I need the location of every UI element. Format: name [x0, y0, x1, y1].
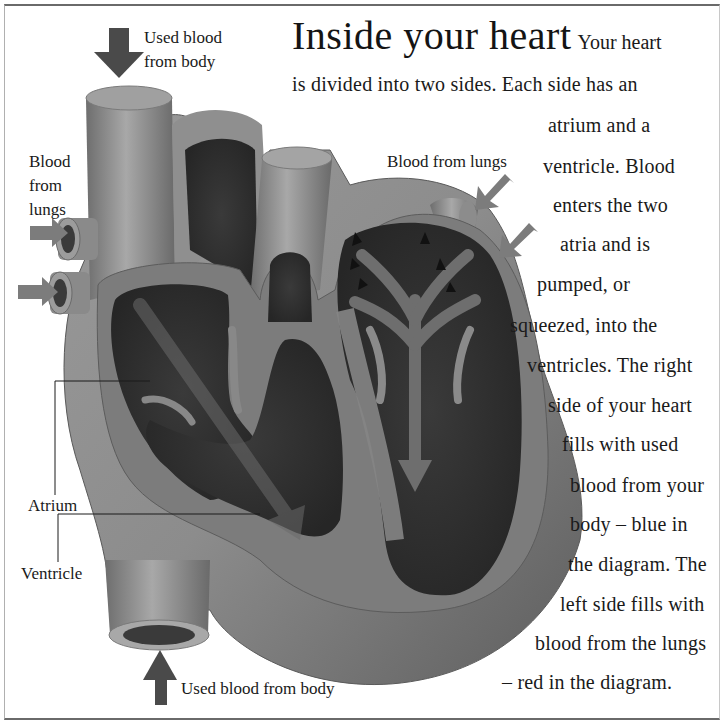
- body-line-2: atrium and a: [548, 114, 650, 137]
- body-line-6: pumped, or: [537, 273, 630, 296]
- label-used-blood-top-1: Used blood: [144, 26, 222, 49]
- body-line-12: body – blue in: [570, 513, 688, 536]
- body-line-16: – red in the diagram.: [502, 671, 672, 694]
- body-line-13: the diagram. The: [568, 553, 707, 576]
- body-line-7: squeezed, into the: [510, 314, 657, 337]
- body-line-3: ventricle. Blood: [543, 155, 675, 178]
- body-line-15: blood from the lungs: [535, 632, 706, 655]
- page-title: Inside your heart: [292, 13, 572, 58]
- arrow-lungs-right-1: [475, 174, 514, 210]
- body-line-11: blood from your: [570, 474, 704, 497]
- body-line-14: left side fills with: [560, 593, 705, 616]
- body-line-8: ventricles. The right: [527, 354, 692, 377]
- arrow-used-blood-bottom: [143, 650, 177, 705]
- label-blood-from-lungs-left-2: from: [29, 174, 62, 197]
- label-atrium: Atrium: [28, 494, 77, 517]
- body-line-0: Your heart: [578, 31, 662, 53]
- body-line-5: atria and is: [560, 233, 650, 256]
- label-blood-from-lungs-left-3: lungs: [29, 198, 66, 221]
- title-line: Inside your heartYour heart: [292, 12, 662, 59]
- arrow-lungs-right-2: [499, 223, 538, 258]
- body-line-10: fills with used: [562, 433, 678, 456]
- arrow-used-blood-top: [94, 28, 144, 78]
- body-line-1: is divided into two sides. Each side has…: [292, 73, 638, 96]
- body-line-4: enters the two: [553, 194, 668, 217]
- body-line-9: side of your heart: [548, 394, 692, 417]
- label-blood-from-lungs-left-1: Blood: [29, 150, 71, 173]
- label-used-blood-top-2: from body: [144, 50, 215, 73]
- label-ventricle: Ventricle: [21, 562, 82, 585]
- label-used-blood-bottom: Used blood from body: [181, 677, 334, 700]
- label-blood-from-lungs-right: Blood from lungs: [387, 150, 507, 173]
- aortic-chamber: [268, 252, 312, 322]
